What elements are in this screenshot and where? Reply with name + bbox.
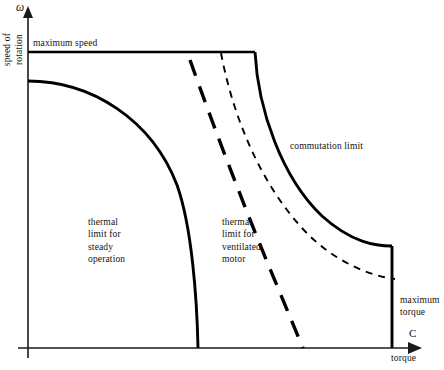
x-axis-label: torque [391, 352, 416, 364]
y-axis-symbol: ω [16, 1, 24, 13]
axes-group [18, 6, 422, 358]
annotation-maximum-torque: maximum torque [400, 294, 440, 319]
y-axis-label: speed of rotation [2, 13, 25, 87]
x-axis-symbol: C [409, 327, 417, 339]
annotation-thermal-limit-steady: thermal limit for steady operation [88, 216, 125, 265]
annotation-thermal-limit-ventilated: thermal limit for ventilated motor [222, 216, 261, 265]
motor-characteristic-diagram: ω speed of rotation C torque maximum spe… [0, 0, 444, 370]
annotation-maximum-speed: maximum speed [33, 37, 97, 49]
chart-canvas [0, 0, 444, 370]
curves-group [28, 52, 395, 348]
curve-thermal-limit-ventilated [190, 60, 303, 348]
curve-thermal-limit-steady [28, 81, 198, 348]
annotation-commutation-limit: commutation limit [290, 140, 363, 152]
